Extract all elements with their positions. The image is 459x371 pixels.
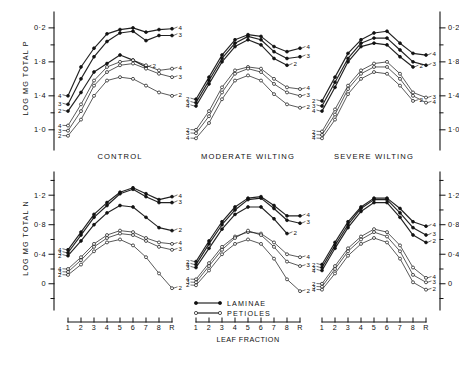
data-point-petioles-2 bbox=[360, 77, 363, 80]
data-point-petioles-3 bbox=[171, 248, 174, 251]
data-point-laminae-2 bbox=[373, 42, 376, 45]
data-point-laminae-4 bbox=[373, 32, 376, 35]
data-point-laminae-4 bbox=[425, 225, 428, 228]
data-point-laminae-4 bbox=[119, 28, 122, 31]
data-point-laminae-4 bbox=[299, 214, 302, 217]
x-tick-label: R bbox=[297, 323, 303, 332]
y-tick-label: 0·2 bbox=[34, 23, 46, 32]
panel-bottom-control: 1·20·80·40LOG MG TOTAL N443322443322 bbox=[21, 172, 183, 310]
data-point-laminae-2 bbox=[80, 240, 83, 243]
data-point-laminae-4 bbox=[286, 214, 289, 217]
data-point-laminae-3 bbox=[80, 234, 83, 237]
data-point-petioles-4 bbox=[286, 253, 289, 256]
data-point-laminae-4 bbox=[425, 54, 428, 57]
x-tick-label: 4 bbox=[233, 323, 238, 332]
data-point-petioles-2 bbox=[399, 257, 402, 260]
data-point-petioles-4 bbox=[221, 245, 224, 248]
data-point-petioles-3 bbox=[221, 91, 224, 94]
end-leader bbox=[428, 241, 432, 243]
legend: LAMINAEPETIOLES bbox=[194, 299, 271, 318]
data-point-petioles-4 bbox=[347, 88, 350, 91]
end-leader bbox=[302, 95, 306, 96]
data-point-petioles-4 bbox=[399, 77, 402, 80]
data-point-laminae-4 bbox=[412, 220, 415, 223]
data-point-laminae-2 bbox=[221, 60, 224, 63]
data-point-petioles-3 bbox=[106, 71, 109, 74]
data-point-petioles-3 bbox=[158, 245, 161, 248]
data-point-laminae-4 bbox=[145, 192, 148, 195]
series-end-label-laminae-2: 2 bbox=[294, 60, 298, 67]
start-leader bbox=[191, 98, 195, 99]
data-point-laminae-2 bbox=[67, 110, 70, 113]
data-point-laminae-2 bbox=[373, 201, 376, 204]
y-tick-label: 1·2 bbox=[34, 191, 46, 200]
end-leader bbox=[302, 214, 306, 216]
series-line-petioles-3 bbox=[196, 69, 300, 134]
data-point-laminae-2 bbox=[247, 38, 250, 41]
data-point-petioles-3 bbox=[221, 248, 224, 251]
x-tick-label: 8 bbox=[411, 323, 416, 332]
data-point-laminae-4 bbox=[234, 38, 237, 41]
series-line-petioles-4 bbox=[68, 60, 172, 125]
data-point-petioles-4 bbox=[399, 244, 402, 247]
data-point-petioles-4 bbox=[286, 86, 289, 89]
x-tick-label: 1 bbox=[194, 323, 199, 332]
y-tick-label: 1·8 bbox=[448, 57, 459, 66]
x-tick-label: 5 bbox=[372, 323, 377, 332]
x-tick-label: R bbox=[169, 323, 175, 332]
y-axis-label: LOG MG TOTAL N bbox=[21, 200, 30, 275]
x-tick-label: 7 bbox=[272, 323, 277, 332]
series-line-petioles-2 bbox=[68, 239, 172, 288]
data-point-laminae-3 bbox=[93, 55, 96, 58]
data-point-laminae-2 bbox=[273, 57, 276, 60]
start-leader bbox=[191, 102, 195, 103]
data-point-petioles-4 bbox=[106, 65, 109, 68]
data-point-laminae-2 bbox=[386, 201, 389, 204]
end-leader bbox=[174, 195, 178, 197]
start-leader bbox=[317, 267, 321, 268]
data-point-petioles-3 bbox=[234, 237, 237, 240]
end-leader bbox=[428, 101, 432, 102]
series-end-label-petioles-4: 4 bbox=[179, 64, 183, 71]
data-point-petioles-4 bbox=[412, 266, 415, 269]
data-point-laminae-4 bbox=[132, 26, 135, 29]
data-point-petioles-2 bbox=[273, 93, 276, 96]
data-point-laminae-3 bbox=[247, 198, 250, 201]
data-point-petioles-2 bbox=[299, 290, 302, 293]
x-tick-label: 8 bbox=[285, 323, 290, 332]
data-point-petioles-4 bbox=[195, 128, 198, 131]
start-leader bbox=[317, 269, 321, 270]
panel-title-1: MODERATE WILTING bbox=[201, 152, 295, 161]
start-leader bbox=[317, 110, 321, 111]
data-point-petioles-2 bbox=[145, 84, 148, 87]
data-point-petioles-2 bbox=[221, 98, 224, 101]
data-point-petioles-3 bbox=[347, 250, 350, 253]
data-point-petioles-2 bbox=[93, 94, 96, 97]
end-leader bbox=[302, 55, 306, 57]
data-point-laminae-3 bbox=[360, 207, 363, 210]
data-point-petioles-2 bbox=[106, 241, 109, 244]
data-point-petioles-4 bbox=[119, 229, 122, 232]
data-point-laminae-4 bbox=[106, 32, 109, 35]
end-leader bbox=[174, 76, 178, 77]
series-end-label-laminae-4: 4 bbox=[307, 43, 311, 50]
data-point-laminae-3 bbox=[373, 198, 376, 201]
data-point-petioles-4 bbox=[67, 124, 70, 127]
data-point-petioles-3 bbox=[386, 60, 389, 63]
series-start-label-laminae-2: 2 bbox=[58, 252, 62, 259]
data-point-petioles-4 bbox=[145, 64, 148, 67]
y-tick-label: 0·4 bbox=[34, 250, 46, 259]
x-tick-label: 3 bbox=[346, 323, 351, 332]
data-point-petioles-2 bbox=[399, 84, 402, 87]
data-point-petioles-3 bbox=[132, 234, 135, 237]
data-point-petioles-4 bbox=[132, 231, 135, 234]
data-point-laminae-2 bbox=[208, 247, 211, 250]
end-leader bbox=[174, 249, 178, 250]
data-point-laminae-4 bbox=[171, 195, 174, 198]
data-point-laminae-2 bbox=[399, 55, 402, 58]
data-point-laminae-3 bbox=[132, 188, 135, 191]
data-point-laminae-2 bbox=[221, 228, 224, 231]
x-tick-label: 6 bbox=[259, 323, 264, 332]
end-leader bbox=[302, 265, 306, 266]
data-point-laminae-2 bbox=[412, 66, 415, 69]
